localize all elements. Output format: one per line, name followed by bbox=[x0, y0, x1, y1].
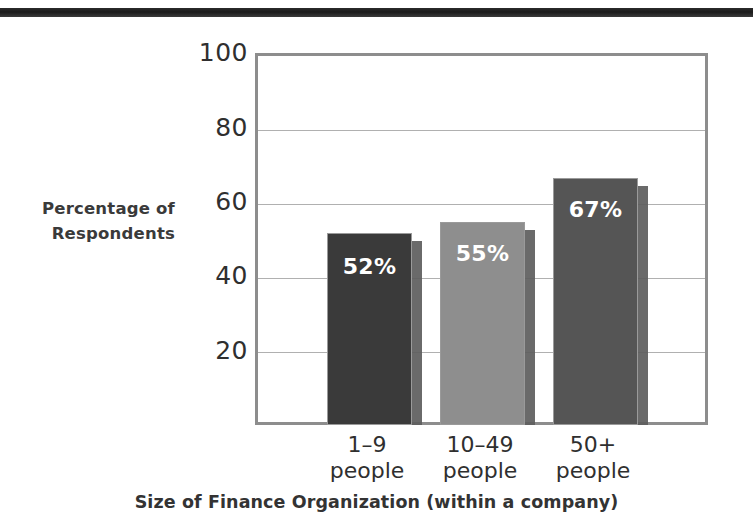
x-category-50-plus-people: 50+ people bbox=[518, 432, 668, 484]
plot-area: 52% 55% 67% bbox=[255, 53, 708, 425]
x-category-2-line1: 10–49 bbox=[447, 432, 514, 457]
bar-chart-figure: 100 80 60 40 20 Percentage of Respondent… bbox=[0, 0, 753, 523]
bar-value-label-3: 67% bbox=[554, 199, 637, 221]
gridline-80 bbox=[258, 130, 705, 131]
bar-value-label-2: 55% bbox=[441, 243, 524, 265]
y-axis-title: Percentage of Respondents bbox=[10, 196, 175, 246]
y-tick-40: 40 bbox=[186, 263, 248, 288]
bar-value-label-1: 52% bbox=[328, 256, 411, 278]
bar-1-9-people[interactable]: 52% bbox=[327, 233, 412, 425]
bar-10-49-people[interactable]: 55% bbox=[440, 222, 525, 425]
y-axis-title-line2: Respondents bbox=[52, 224, 175, 243]
y-tick-60: 60 bbox=[186, 189, 248, 214]
y-tick-80: 80 bbox=[186, 115, 248, 140]
top-divider-rule bbox=[0, 8, 753, 17]
x-category-3-line2: people bbox=[518, 458, 668, 484]
x-category-1-line1: 1–9 bbox=[348, 432, 387, 457]
y-axis-tick-labels: 100 80 60 40 20 bbox=[178, 0, 248, 523]
x-category-3-line1: 50+ bbox=[570, 432, 616, 457]
y-tick-20: 20 bbox=[186, 338, 248, 363]
y-axis-title-line1: Percentage of bbox=[42, 199, 175, 218]
bar-50-plus-people[interactable]: 67% bbox=[553, 178, 638, 425]
x-axis-title: Size of Finance Organization (within a c… bbox=[0, 492, 753, 512]
y-tick-100: 100 bbox=[186, 40, 248, 65]
